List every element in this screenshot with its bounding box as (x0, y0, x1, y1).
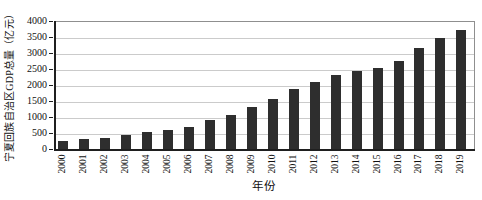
bar-2005 (163, 130, 173, 150)
bar-2012 (310, 82, 320, 150)
x-tick-label-2009: 2009 (245, 151, 257, 177)
bar-2003 (121, 135, 131, 150)
x-axis-title: 年份 (54, 177, 473, 193)
x-tick-label-2013: 2013 (329, 151, 341, 177)
y-tick-label-1000: 1000 (15, 112, 47, 122)
bar-2010 (268, 99, 278, 150)
bar-2008 (226, 115, 236, 150)
x-tick-label-2014: 2014 (350, 151, 362, 177)
bar-2014 (352, 71, 362, 150)
bar-2011 (289, 89, 299, 150)
x-tick-label-2007: 2007 (203, 151, 215, 177)
gridline-500 (55, 134, 474, 135)
x-tick-label-2019: 2019 (454, 151, 466, 177)
bar-2017 (414, 48, 424, 150)
x-tick-label-2011: 2011 (287, 151, 299, 177)
gridline-1500 (55, 102, 474, 103)
y-tick-label-3000: 3000 (15, 48, 47, 58)
x-tick-label-2005: 2005 (161, 151, 173, 177)
y-tick-2000 (49, 85, 53, 86)
y-tick-1000 (49, 117, 53, 118)
y-tick-4000 (49, 21, 53, 22)
bar-2015 (373, 68, 383, 150)
gridline-2000 (55, 86, 474, 87)
y-tick-3500 (49, 37, 53, 38)
x-tick-label-2010: 2010 (266, 151, 278, 177)
y-tick-0 (49, 149, 53, 150)
bar-2018 (435, 38, 445, 150)
x-tick-label-2008: 2008 (224, 151, 236, 177)
y-tick-label-2500: 2500 (15, 64, 47, 74)
x-tick-label-2002: 2002 (98, 151, 110, 177)
bar-2016 (394, 61, 404, 150)
y-tick-label-3500: 3500 (15, 32, 47, 42)
bar-2013 (331, 75, 341, 150)
x-tick-label-2015: 2015 (371, 151, 383, 177)
bar-2019 (456, 30, 466, 150)
y-axis-line (54, 21, 56, 151)
gridline-3000 (55, 54, 474, 55)
x-tick-label-2000: 2000 (56, 151, 68, 177)
y-tick-3000 (49, 53, 53, 54)
y-tick-500 (49, 133, 53, 134)
gdp-bar-chart-figure: 宁夏回族自治区GDP总量（亿元） 05001000150020002500300… (0, 0, 482, 200)
x-tick-label-2017: 2017 (412, 151, 424, 177)
y-axis-title: 宁夏回族自治区GDP总量（亿元） (3, 1, 16, 171)
gridline-3500 (55, 38, 474, 39)
y-tick-1500 (49, 101, 53, 102)
bar-2004 (142, 132, 152, 150)
x-tick-label-2003: 2003 (119, 151, 131, 177)
x-tick-label-2001: 2001 (77, 151, 89, 177)
bar-2001 (79, 139, 89, 150)
bar-2006 (184, 127, 194, 150)
gridline-2500 (55, 70, 474, 71)
y-tick-2500 (49, 69, 53, 70)
y-tick-label-4000: 4000 (15, 16, 47, 26)
y-tick-label-500: 500 (15, 128, 47, 138)
bar-2007 (205, 120, 215, 150)
x-tick-label-2012: 2012 (308, 151, 320, 177)
bar-2009 (247, 107, 257, 150)
bar-2002 (100, 138, 110, 150)
x-tick-label-2004: 2004 (140, 151, 152, 177)
y-tick-label-1500: 1500 (15, 96, 47, 106)
x-tick-label-2006: 2006 (182, 151, 194, 177)
y-tick-label-2000: 2000 (15, 80, 47, 90)
y-tick-label-0: 0 (15, 144, 47, 154)
x-tick-label-2016: 2016 (392, 151, 404, 177)
plot-area (54, 21, 475, 151)
x-tick-label-2018: 2018 (433, 151, 445, 177)
gridline-1000 (55, 118, 474, 119)
